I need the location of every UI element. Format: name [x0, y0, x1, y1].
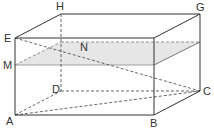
edge-FG [154, 14, 200, 38]
prism-diagram: H G E N M D C A B [0, 0, 214, 129]
segment-AC [15, 91, 200, 115]
edge-EH [15, 14, 61, 38]
label-B: B [150, 117, 157, 129]
label-G: G [196, 1, 205, 13]
edge-BC [154, 91, 200, 115]
label-H: H [56, 0, 64, 12]
label-N: N [80, 41, 88, 53]
label-C: C [203, 85, 211, 97]
label-D: D [52, 83, 60, 95]
section-plane [15, 42, 200, 65]
label-E: E [4, 32, 11, 44]
label-A: A [6, 115, 14, 127]
label-M: M [3, 59, 12, 71]
